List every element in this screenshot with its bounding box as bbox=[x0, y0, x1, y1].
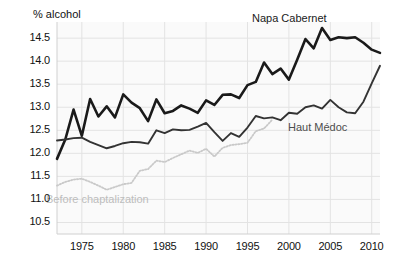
y-tick-label: 11.5 bbox=[6, 169, 50, 181]
series-line-napa-cabernet bbox=[57, 28, 380, 159]
y-tick-label: 12.5 bbox=[6, 123, 50, 135]
y-tick-label: 12.0 bbox=[6, 146, 50, 158]
x-tick-label: 1975 bbox=[59, 240, 105, 252]
x-tick-label: 1995 bbox=[224, 240, 270, 252]
series-label-napa-cabernet: Napa Cabernet bbox=[252, 12, 327, 24]
x-tick-label: 1990 bbox=[183, 240, 229, 252]
x-tick-label: 2000 bbox=[266, 240, 312, 252]
chart-root: % alcohol Napa Cabernet Haut Médoc Befor… bbox=[0, 0, 397, 277]
y-tick-label: 14.5 bbox=[6, 31, 50, 43]
y-tick-label: 14.0 bbox=[6, 54, 50, 66]
y-tick-label: 11.0 bbox=[6, 192, 50, 204]
y-tick-label: 10.5 bbox=[6, 215, 50, 227]
y-tick-label: 13.5 bbox=[6, 77, 50, 89]
x-tick-label: 1980 bbox=[100, 240, 146, 252]
chart-svg bbox=[0, 0, 397, 277]
x-tick-label: 2010 bbox=[349, 240, 395, 252]
series-label-haut-medoc: Haut Médoc bbox=[288, 121, 347, 133]
x-tick-label: 2005 bbox=[307, 240, 353, 252]
x-tick-label: 1985 bbox=[142, 240, 188, 252]
y-tick-label: 13.0 bbox=[6, 100, 50, 112]
series-label-before-chaptalization: Before chaptalization bbox=[46, 193, 149, 205]
